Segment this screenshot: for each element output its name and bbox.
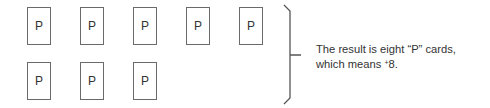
caption-text: which means — [316, 58, 384, 70]
p-card: P — [27, 62, 51, 100]
right-brace-icon — [283, 4, 305, 105]
p-card: P — [133, 62, 157, 100]
p-card: P — [186, 7, 210, 45]
p-card: P — [133, 7, 157, 45]
card-label: P — [247, 19, 255, 33]
p-card: P — [27, 7, 51, 45]
card-label: P — [35, 19, 43, 33]
card-label: P — [88, 19, 96, 33]
p-card: P — [80, 7, 104, 45]
caption-line-2: which means +8. — [316, 56, 456, 71]
p-card: P — [80, 62, 104, 100]
caption-period: . — [395, 58, 398, 70]
card-label: P — [35, 74, 43, 88]
caption-line-1: The result is eight “P” cards, — [316, 43, 456, 56]
card-label: P — [141, 74, 149, 88]
card-label: P — [141, 19, 149, 33]
card-label: P — [88, 74, 96, 88]
card-label: P — [194, 19, 202, 33]
p-card: P — [239, 7, 263, 45]
result-caption: The result is eight “P” cards, which mea… — [316, 43, 456, 71]
